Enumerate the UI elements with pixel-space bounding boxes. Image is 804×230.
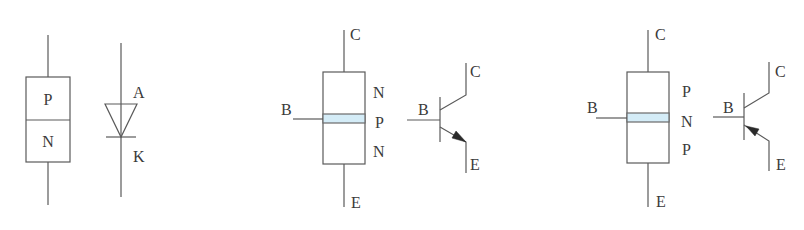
pnp-layer-3: P (682, 141, 691, 158)
pnp-collector-label: C (655, 26, 666, 43)
pn-layer-p: P (44, 91, 53, 108)
pnp-base-band (627, 113, 669, 122)
pnp-symbol-emitter-label: E (776, 156, 786, 173)
npn-emitter-arrow-icon (452, 131, 466, 142)
pnp-symbol-collector-label: C (775, 63, 786, 80)
pnp-symbol-collector (744, 62, 769, 108)
pnp-emitter-arrow-icon (746, 126, 759, 136)
npn-base-label: B (281, 101, 292, 118)
pn-junction: P N (26, 35, 70, 205)
diode-cathode-label: K (133, 148, 145, 165)
npn-emitter-label: E (351, 194, 361, 211)
npn-layer-2: P (375, 114, 384, 131)
semiconductor-diagram: P N A K C B E N P N B C E (0, 0, 804, 230)
pnp-symbol-base-label: B (723, 99, 734, 116)
npn-symbol-collector-label: C (470, 63, 481, 80)
npn-layer-3: N (373, 143, 385, 160)
diode-symbol: A K (105, 43, 145, 197)
pnp-layer-2: N (681, 113, 693, 130)
diode-anode-label: A (133, 84, 145, 101)
npn-symbol-base-label: B (418, 101, 429, 118)
pnp-emitter-label: E (656, 193, 666, 210)
npn-base-band (323, 114, 365, 123)
pnp-structure: C B E P N P (587, 26, 693, 210)
pnp-symbol: B C E (713, 62, 786, 173)
pn-layer-n: N (42, 133, 54, 150)
npn-symbol: B C E (407, 63, 481, 173)
npn-structure: C B E N P N (281, 26, 385, 211)
pnp-base-label: B (587, 99, 598, 116)
npn-layer-1: N (373, 84, 385, 101)
npn-symbol-emitter-label: E (470, 156, 480, 173)
npn-symbol-emitter (440, 127, 466, 173)
npn-collector-label: C (350, 26, 361, 43)
npn-symbol-collector (440, 63, 466, 110)
pnp-layer-1: P (682, 83, 691, 100)
